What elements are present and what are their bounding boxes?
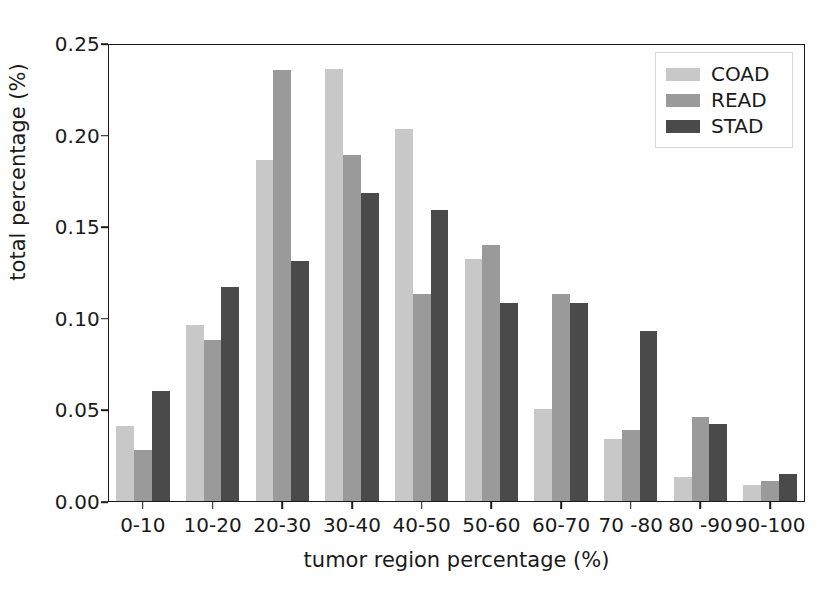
y-axis-tick-label: 0.15: [0, 215, 100, 239]
bar-read-90-100: [761, 481, 779, 501]
x-axis-tick-mark: [560, 502, 562, 509]
legend: COADREADSTAD: [655, 52, 793, 148]
bar-stad-40-50: [431, 210, 449, 501]
y-axis-tick-label: 0.20: [0, 124, 100, 148]
bar-coad-40-50: [395, 129, 413, 501]
bar-coad-70-80: [604, 439, 622, 501]
legend-item-coad: COAD: [666, 61, 782, 87]
bar-stad-70-80: [640, 331, 658, 501]
bar-read-10-20: [204, 340, 222, 501]
x-axis-tick-mark: [491, 502, 493, 509]
x-axis-tick-label: 90-100: [710, 513, 830, 537]
bar-coad-30-40: [325, 69, 343, 501]
bar-read-20-30: [273, 70, 291, 501]
bar-stad-0-10: [152, 391, 170, 501]
bar-read-70-80: [622, 430, 640, 501]
x-axis-tick-mark: [630, 502, 632, 509]
legend-label: COAD: [711, 64, 769, 84]
bar-coad-20-30: [256, 160, 274, 501]
bar-stad-50-60: [500, 303, 518, 501]
bar-stad-20-30: [291, 261, 309, 501]
y-axis-tick-label: 0.25: [0, 32, 100, 56]
x-axis-tick-mark: [700, 502, 702, 509]
legend-item-read: READ: [666, 87, 782, 113]
x-axis-tick-mark: [212, 502, 214, 509]
bar-stad-10-20: [221, 287, 239, 501]
bar-coad-90-100: [743, 485, 761, 501]
bar-read-50-60: [482, 245, 500, 501]
bar-coad-50-60: [465, 259, 483, 501]
legend-swatch-read: [666, 94, 700, 107]
x-axis-tick-mark: [281, 502, 283, 509]
x-axis-tick-mark: [142, 502, 144, 509]
bar-coad-10-20: [186, 325, 204, 501]
x-axis-tick-mark: [421, 502, 423, 509]
y-axis-tick-mark: [101, 410, 108, 412]
y-axis-tick-mark: [101, 501, 108, 503]
legend-swatch-coad: [666, 68, 700, 81]
bar-stad-80-90: [709, 424, 727, 501]
y-axis-tick-mark: [101, 226, 108, 228]
bar-stad-30-40: [361, 193, 379, 501]
bar-read-30-40: [343, 155, 361, 501]
x-axis-label: tumor region percentage (%): [108, 548, 805, 572]
bar-read-80-90: [692, 417, 710, 501]
bar-coad-0-10: [116, 426, 134, 501]
bar-stad-90-100: [779, 474, 797, 501]
y-axis-tick-mark: [101, 135, 108, 137]
y-axis-tick-label: 0.10: [0, 307, 100, 331]
bar-read-0-10: [134, 450, 152, 501]
y-axis-tick-label: 0.05: [0, 398, 100, 422]
x-axis-tick-mark: [351, 502, 353, 509]
bar-coad-60-70: [534, 409, 552, 501]
legend-item-stad: STAD: [666, 113, 782, 139]
bar-read-60-70: [552, 294, 570, 501]
bar-stad-60-70: [570, 303, 588, 501]
legend-swatch-stad: [666, 120, 700, 133]
legend-label: STAD: [711, 116, 763, 136]
legend-label: READ: [711, 90, 767, 110]
y-axis-tick-label: 0.00: [0, 490, 100, 514]
x-axis-tick-mark: [769, 502, 771, 509]
bar-coad-80-90: [674, 477, 692, 501]
bar-chart-figure: total percentage (%) 0.000.050.100.150.2…: [0, 0, 835, 593]
y-axis-tick-mark: [101, 43, 108, 45]
bar-read-40-50: [413, 294, 431, 501]
y-axis-tick-mark: [101, 318, 108, 320]
